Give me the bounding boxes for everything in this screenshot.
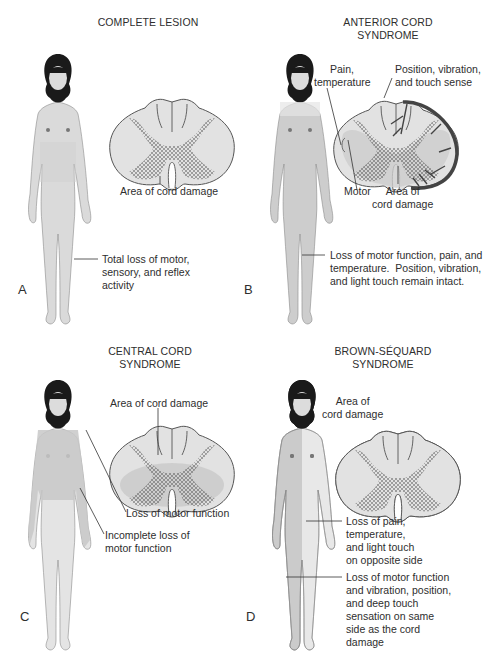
label-opposite-side: Loss of pain,temperature,and light touch… <box>346 515 422 567</box>
label-same-side: Loss of motor functionand vibration, pos… <box>346 571 451 649</box>
panel-letter: D <box>246 609 255 624</box>
label-cord-damage: Area ofcord damage <box>322 395 383 421</box>
